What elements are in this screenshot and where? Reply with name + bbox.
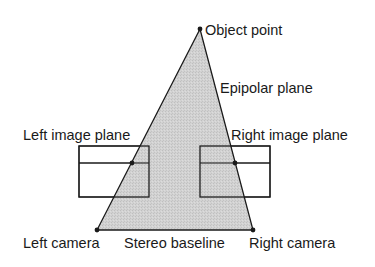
- epipolar-plane-label: Epipolar plane: [220, 80, 313, 96]
- left-image-plane-label: Left image plane: [23, 127, 130, 143]
- right-projection-dot: [233, 161, 238, 166]
- left-camera-dot: [95, 228, 100, 233]
- object-point-label: Object point: [205, 22, 282, 38]
- left-projection-dot: [130, 161, 135, 166]
- diagram-canvas: Object point Epipolar plane Left image p…: [0, 0, 375, 267]
- right-camera-dot: [251, 228, 256, 233]
- right-camera-label: Right camera: [249, 235, 336, 251]
- right-image-plane-label: Right image plane: [231, 127, 348, 143]
- left-camera-label: Left camera: [23, 235, 100, 251]
- object-point-dot: [198, 27, 203, 32]
- stereo-geometry-diagram: Object point Epipolar plane Left image p…: [0, 0, 375, 267]
- stereo-baseline-label: Stereo baseline: [124, 235, 225, 251]
